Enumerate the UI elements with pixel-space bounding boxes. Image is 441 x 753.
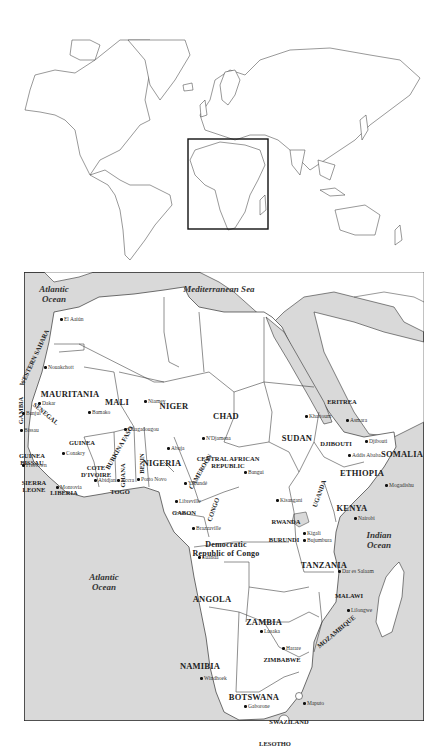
water-label-indian-ocean: IndianOcean [366, 530, 391, 550]
country-label-mozambique: MOZAMBIQUE [316, 614, 357, 650]
country-label-burundi: BURUNDI [269, 536, 299, 543]
country-label-djibouti: DJIBOUTI [320, 440, 351, 447]
city-label-harare: Harare [286, 645, 301, 651]
city-label-kigali: Kigali [307, 530, 321, 536]
city-label-addis-ababa: Addis Ababa [352, 452, 381, 458]
city-dot-bissau [20, 429, 23, 432]
city-label-ouagadougou: Ouagadougou [128, 426, 159, 432]
city-dot-freetown [22, 464, 25, 467]
city-label-lilongwe: Lilongwe [351, 607, 372, 613]
africa-labels: AtlanticOceanMediterranean SeaIndianOcea… [24, 272, 424, 721]
country-label-zambia: ZAMBIA [246, 618, 282, 627]
city-dot-windhoek [200, 677, 203, 680]
city-dot-conakry [62, 452, 65, 455]
africa-map: AtlanticOceanMediterranean SeaIndianOcea… [24, 272, 424, 721]
city-label-maputo: Maputo [307, 700, 324, 706]
city-dot-djibouti [365, 440, 368, 443]
world-map [0, 0, 441, 265]
city-label-libreville: Libreville [179, 498, 201, 504]
city-dot-mogadishu [385, 484, 388, 487]
city-label-gaborone: Gaborone [248, 703, 270, 709]
country-label-western-sahara: WESTERN SAHARA [18, 328, 50, 387]
city-dot-el-aai-n [60, 318, 63, 321]
city-label-bissau: Bissau [24, 427, 39, 433]
country-label-guinea: GUINEA [69, 439, 95, 446]
country-label-central-african-republic: CENTRAL AFRICANREPUBLIC [197, 455, 260, 469]
country-label-zimbabwe: ZIMBABWE [263, 656, 300, 663]
city-dot-bujumbura [303, 539, 306, 542]
city-label-nairobi: Nairobi [358, 515, 375, 521]
country-label-malawi: MALAWI [335, 592, 363, 599]
city-dot-abidjan [94, 479, 97, 482]
country-label-kenya: KENYA [337, 504, 368, 513]
country-label-sierra-leone: SIERRALEONE [22, 479, 47, 493]
city-label-abidjan: Abidjan [98, 477, 116, 483]
city-dot-kigali [303, 532, 306, 535]
country-label-nigeria: NIGERIA [143, 459, 182, 468]
city-label-el-aai-n: El Aaiún [64, 316, 83, 322]
city-dot-niamey [144, 400, 147, 403]
country-label-chad: CHAD [213, 412, 239, 421]
city-dot-abuja [167, 447, 170, 450]
country-label-mauritania: MAURITANIA [41, 390, 100, 399]
city-label-monrovia: Monrovia [60, 484, 82, 490]
city-dot-nairobi [354, 517, 357, 520]
city-label-windhoek: Windhoek [204, 675, 227, 681]
city-dot-lilongwe [347, 609, 350, 612]
country-label-botswana: BOTSWANA [229, 693, 279, 702]
city-dot-porto-novo [137, 478, 140, 481]
country-label-gambia: GAMBIA [17, 397, 24, 424]
city-dot-libreville [175, 500, 178, 503]
city-dot-dar-es-salaam [338, 570, 341, 573]
country-label-lesotho: LESOTHO [259, 740, 291, 747]
country-label-congo: CONGO [206, 497, 221, 522]
country-label-somalia: SOMALIA [381, 450, 423, 459]
city-label-bangui: Bangui [248, 469, 264, 475]
city-label-lusaka: Lusaka [264, 628, 280, 634]
city-dot-luanda [198, 556, 201, 559]
city-label-brazzaville: Brazzaville [196, 525, 221, 531]
country-label-rwanda: RWANDA [271, 518, 300, 525]
city-label-banjul: Banjul [26, 410, 41, 416]
city-label-djibouti: Djibouti [369, 438, 387, 444]
city-label-n-djamena: N'Djamena [206, 435, 231, 441]
city-dot-addis-ababa [348, 454, 351, 457]
water-label-atlantic-ocean: AtlanticOcean [39, 284, 69, 304]
country-label-togo: TOGO [110, 488, 129, 495]
city-label-khartoum: Khartoum [309, 413, 331, 419]
city-label-niamey: Niamey [148, 398, 165, 404]
country-label-swaziland: SWAZILAND [269, 718, 308, 725]
city-label-dakar: Dakar [42, 400, 55, 406]
country-label-eritrea: ERITREA [327, 398, 357, 405]
city-dot-kisangani [276, 499, 279, 502]
country-label-ethiopia: ETHIOPIA [340, 469, 384, 478]
city-dot-ouagadougou [124, 428, 127, 431]
country-label-mali: MALI [105, 398, 129, 407]
city-dot-asmara [346, 419, 349, 422]
city-label-accra: Accra [121, 477, 134, 483]
city-dot-maputo [303, 702, 306, 705]
city-label-asmara: Asmara [350, 417, 367, 423]
country-label-ghana: GHANA [119, 463, 126, 487]
country-label-liberia: LIBERIA [50, 489, 77, 496]
city-dot-nouakchott [44, 366, 47, 369]
country-label-uganda: UGANDA [311, 479, 327, 508]
city-label-porto-novo: Porto Novo [141, 476, 167, 482]
city-dot-accra [117, 479, 120, 482]
city-label-mogadishu: Mogadishu [389, 482, 414, 488]
water-label-atlantic-ocean-south: AtlanticOcean [89, 572, 119, 592]
city-label-abuja: Abuja [171, 445, 184, 451]
world-map-outline [0, 0, 441, 265]
city-label-bamako: Bamako [92, 409, 110, 415]
city-dot-bangui [244, 471, 247, 474]
city-dot-gaborone [244, 705, 247, 708]
city-dot-dakar [38, 402, 41, 405]
city-dot-monrovia [56, 486, 59, 489]
country-label-namibia: NAMIBIA [180, 662, 220, 671]
city-dot-bamako [88, 411, 91, 414]
city-dot-brazzaville [192, 527, 195, 530]
city-label-yaound: Yaoundé [188, 480, 207, 486]
country-label-sudan: SUDAN [282, 434, 312, 443]
city-dot-lusaka [260, 630, 263, 633]
country-label-angola: ANGOLA [193, 595, 232, 604]
